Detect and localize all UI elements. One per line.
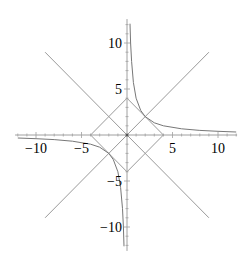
- y-tick-label: −10: [100, 220, 122, 235]
- plot-area: −10−5510105−5−10: [0, 0, 252, 267]
- y-tick-label: 5: [115, 82, 122, 97]
- origin-point: [126, 134, 129, 137]
- y-tick-label: −5: [107, 174, 122, 189]
- y-tick-label: 10: [108, 36, 122, 51]
- x-tick-label: −10: [25, 141, 47, 156]
- x-tick-label: 10: [211, 141, 225, 156]
- x-tick-label: −5: [74, 141, 89, 156]
- x-tick-label: 5: [169, 141, 176, 156]
